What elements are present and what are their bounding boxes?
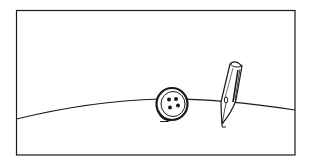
button-icon — [157, 88, 188, 122]
illustration-canvas — [0, 0, 315, 161]
pen-nib-icon — [221, 62, 242, 127]
frame-border — [17, 11, 296, 156]
